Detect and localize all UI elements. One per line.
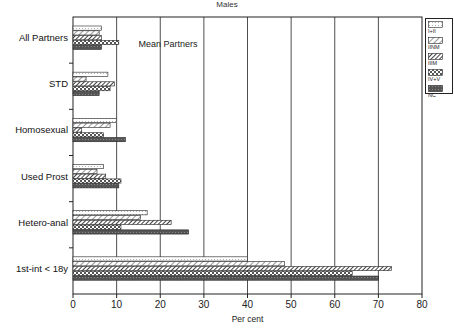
bar [73, 26, 101, 30]
legend-item: I+II [428, 21, 452, 35]
bar [73, 271, 352, 275]
x-tick-label: 20 [155, 299, 167, 310]
x-tick-label: 50 [286, 299, 298, 310]
bar [73, 215, 141, 219]
category-label: All Partners [19, 32, 68, 43]
legend-swatch [428, 37, 443, 44]
bar [73, 276, 378, 280]
bar [73, 40, 119, 44]
plot-area: 01020304050607080Per centAll PartnersSTD… [15, 17, 428, 324]
category-label: STD [49, 78, 68, 89]
category-label: Used Prost [21, 171, 68, 182]
bar [73, 165, 104, 169]
x-tick-label: 30 [198, 299, 210, 310]
bar [73, 72, 108, 76]
legend-swatch [428, 21, 443, 28]
legend-item: IINM [428, 37, 452, 51]
bar [73, 220, 171, 224]
x-tick-label: 0 [70, 299, 76, 310]
bar [73, 91, 99, 95]
legend-item: IIIM [428, 53, 452, 67]
bar [73, 230, 189, 234]
legend: I+IIIINMIIIMIV+VNC [425, 18, 453, 94]
legend-item: NC [428, 85, 452, 99]
legend-label: NC [428, 92, 436, 99]
category-label: Homosexual [15, 124, 68, 135]
bar [73, 36, 101, 40]
bar [73, 262, 285, 266]
category-label: Hetero-anal [18, 217, 68, 228]
bar [73, 257, 248, 261]
x-tick-label: 70 [373, 299, 385, 310]
legend-item: IV+V [428, 69, 452, 83]
legend-label: I+II [428, 28, 436, 35]
annotation-mean-partners: Mean Partners [138, 39, 198, 49]
bar [73, 133, 104, 137]
bar [73, 82, 114, 86]
bar [73, 77, 86, 81]
legend-label: IV+V [428, 76, 440, 83]
legend-swatch [428, 85, 443, 92]
bar [73, 31, 99, 35]
legend-swatch [428, 69, 443, 76]
bar [73, 266, 391, 270]
x-tick-label: 40 [242, 299, 254, 310]
bar [73, 45, 101, 49]
legend-swatch [428, 53, 443, 60]
x-tick-label: 60 [329, 299, 341, 310]
bar [73, 138, 125, 142]
bar [73, 118, 117, 122]
x-tick-label: 80 [416, 299, 428, 310]
legend-label: IINM [428, 44, 440, 51]
x-axis-label: Per cent [232, 314, 264, 324]
bar [73, 211, 147, 215]
bar-chart: 01020304050607080Per centAll PartnersSTD… [0, 0, 454, 331]
x-tick-label: 10 [111, 299, 123, 310]
bar [73, 169, 97, 173]
bar [73, 225, 121, 229]
bar [73, 87, 110, 91]
bar [73, 128, 82, 132]
bar [73, 184, 119, 188]
bar [73, 123, 110, 127]
bar [73, 179, 121, 183]
bar [73, 174, 106, 178]
category-label: 1st-int < 18y [16, 263, 68, 274]
legend-label: IIIM [428, 60, 437, 67]
